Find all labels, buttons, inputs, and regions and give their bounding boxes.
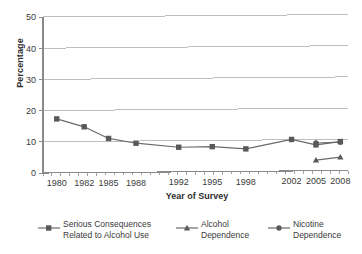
data-point-0-5 xyxy=(210,144,215,149)
x-tick-label-1998: 1998 xyxy=(236,177,256,187)
x-tick-label-2002: 2002 xyxy=(282,176,302,186)
legend-label-1: Alcohol Dependence xyxy=(201,219,249,240)
square-marker xyxy=(38,220,60,232)
axis-lines xyxy=(43,17,348,173)
triangle-marker xyxy=(176,220,198,232)
y-axis-ticks: 01020304050 xyxy=(26,12,43,178)
x-tick-label-1985: 1985 xyxy=(99,178,119,188)
x-tick-label-1982: 1982 xyxy=(74,178,94,188)
legend-label-2: Nicotine Dependence xyxy=(293,219,341,240)
y-tick-label-0: 0 xyxy=(31,168,36,178)
data-point-0-1 xyxy=(81,124,86,129)
series-2 xyxy=(313,139,343,145)
y-tick-label-20: 20 xyxy=(26,106,36,116)
data-point-0-4 xyxy=(176,145,181,150)
y-tick-label-30: 30 xyxy=(26,75,36,85)
gridlines xyxy=(43,15,348,174)
x-tick-label-2005: 2005 xyxy=(306,176,326,186)
gridline-50 xyxy=(43,15,348,18)
legend-item-0[interactable]: Serious Consequences Related to Alcohol … xyxy=(38,219,176,240)
x-tick-label-1992: 1992 xyxy=(169,177,189,187)
chart-legend: Serious Consequences Related to Alcohol … xyxy=(38,219,354,240)
data-point-0-2 xyxy=(106,136,111,141)
legend-item-2[interactable]: Nicotine Dependence xyxy=(268,219,354,240)
data-point-1-1 xyxy=(337,154,343,160)
x-tick-label-1995: 1995 xyxy=(202,177,222,187)
legend-label-0: Serious Consequences Related to Alcohol … xyxy=(63,219,151,240)
y-tick-label-40: 40 xyxy=(26,44,36,54)
x-tick-label-1988: 1988 xyxy=(126,178,146,188)
gridline-20 xyxy=(43,108,348,111)
gridline-30 xyxy=(43,77,348,80)
line-chart-figure: Percentage Year of Survey 01020304050 19… xyxy=(0,0,362,254)
data-point-0-3 xyxy=(133,141,138,146)
circle-marker xyxy=(268,220,290,232)
series-line-0 xyxy=(57,119,341,149)
x-tick-label-2008: 2008 xyxy=(330,176,350,186)
plot-area: 01020304050 1980198219851988199219951998… xyxy=(0,0,362,254)
series-0 xyxy=(54,116,343,151)
series-line-1 xyxy=(316,157,340,160)
y-tick-label-10: 10 xyxy=(26,137,36,147)
data-point-0-0 xyxy=(54,116,59,121)
series-1 xyxy=(313,154,344,163)
data-point-0-6 xyxy=(243,146,248,151)
data-point-2-1 xyxy=(338,139,343,144)
series-line-2 xyxy=(316,142,340,143)
y-tick-label-50: 50 xyxy=(26,12,36,22)
data-point-0-7 xyxy=(289,137,294,142)
x-tick-label-1980: 1980 xyxy=(47,178,67,188)
gridline-40 xyxy=(43,46,348,49)
data-point-2-0 xyxy=(313,140,318,145)
legend-item-1[interactable]: Alcohol Dependence xyxy=(176,219,268,240)
x-axis-ticks: 1980198219851988199219951998200220052008 xyxy=(43,171,350,189)
